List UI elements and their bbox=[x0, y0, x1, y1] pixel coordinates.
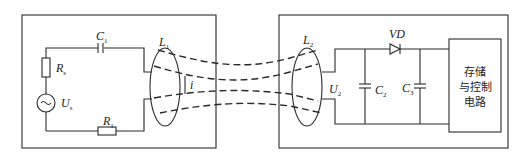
label-u2: U2 bbox=[329, 82, 342, 98]
label-r1: R1 bbox=[102, 114, 114, 130]
l2-coil-icon bbox=[292, 48, 322, 126]
label-c1: C1 bbox=[96, 29, 108, 45]
label-vd: VD bbox=[389, 27, 405, 41]
receiver-circuit bbox=[322, 44, 449, 124]
diode-icon bbox=[390, 44, 400, 54]
block-line-3: 电路 bbox=[464, 96, 486, 109]
label-current-i: i bbox=[190, 78, 193, 92]
label-rs: Rs bbox=[55, 61, 66, 77]
label-l2: L2 bbox=[302, 33, 314, 49]
rs-resistor-icon bbox=[42, 58, 50, 77]
transmitter-circuit bbox=[37, 43, 152, 135]
label-c2: C2 bbox=[375, 83, 387, 99]
circuit-diagram: 存储 与控制 电路 C1 Rs Us R1 L1 i L2 U2 C2 VD C… bbox=[0, 0, 524, 160]
block-line-1: 存储 bbox=[464, 65, 486, 79]
label-us: Us bbox=[61, 96, 73, 112]
transmitter-box bbox=[22, 15, 216, 148]
l1-coil-icon bbox=[150, 48, 180, 126]
label-l1: L1 bbox=[158, 35, 170, 51]
block-line-2: 与控制 bbox=[459, 80, 492, 94]
label-c3: C3 bbox=[402, 81, 414, 97]
